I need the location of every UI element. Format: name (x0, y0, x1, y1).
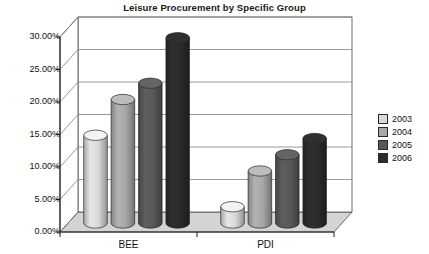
chart-legend: 2003 2004 2005 2006 (378, 113, 412, 163)
chart-container: Leisure Procurement by Specific Group 0.… (0, 0, 429, 254)
bar-BEE-2004 (111, 94, 135, 228)
legend-item[interactable]: 2005 (378, 139, 412, 150)
legend-label: 2004 (392, 127, 412, 137)
x-axis-category-label: BEE (89, 239, 169, 250)
bar-BEE-2005 (139, 78, 163, 228)
x-axis-category-label: PDI (226, 239, 306, 250)
bar-PDI-2005 (276, 150, 300, 229)
legend-label: 2006 (392, 153, 412, 163)
bar-PDI-2004 (248, 166, 272, 228)
plot-area (0, 0, 429, 254)
legend-item[interactable]: 2003 (378, 113, 412, 124)
bar-BEE-2003 (84, 130, 108, 228)
legend-label: 2003 (392, 114, 412, 124)
bar-BEE-2006 (166, 33, 190, 229)
bar-PDI-2003 (221, 202, 245, 229)
legend-swatch-2006 (378, 153, 388, 163)
legend-swatch-2004 (378, 127, 388, 137)
plot-svg (0, 0, 429, 254)
legend-swatch-2005 (378, 140, 388, 150)
legend-item[interactable]: 2004 (378, 126, 412, 137)
legend-swatch-2003 (378, 114, 388, 124)
legend-label: 2005 (392, 140, 412, 150)
legend-item[interactable]: 2006 (378, 152, 412, 163)
bar-PDI-2006 (303, 133, 327, 228)
